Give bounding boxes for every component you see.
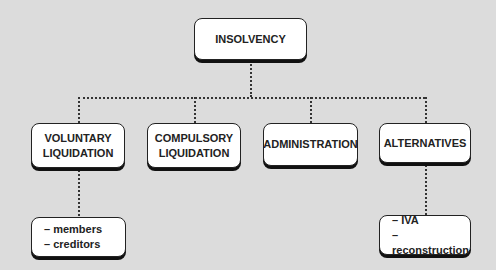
node-alternatives-label: ALTERNATIVES	[384, 136, 467, 151]
node-insolvency: INSOLVENCY	[194, 18, 307, 60]
connector-voluntary	[78, 97, 80, 123]
node-compulsory-label-line1: COMPULSORY	[155, 131, 233, 146]
node-alternatives-details: – IVA – reconstruction	[379, 215, 471, 255]
node-insolvency-label: INSOLVENCY	[215, 32, 286, 47]
connector-compulsory	[194, 97, 196, 123]
node-voluntary-label-line2: LIQUIDATION	[43, 146, 114, 161]
node-alternatives: ALTERNATIVES	[379, 123, 471, 163]
connector-root-down	[250, 61, 252, 97]
node-administration-label: ADMINISTRATION	[263, 137, 358, 152]
detail-iva: – IVA	[392, 213, 470, 228]
connector-horizontal	[78, 97, 425, 99]
connector-alternatives	[425, 97, 427, 123]
detail-members: – members	[44, 222, 102, 237]
node-voluntary-label-line1: VOLUNTARY	[43, 131, 114, 146]
node-compulsory-liquidation: COMPULSORY LIQUIDATION	[147, 123, 241, 168]
connector-administration	[310, 97, 312, 123]
detail-reconstruction: – reconstruction	[392, 228, 470, 258]
node-voluntary-liquidation: VOLUNTARY LIQUIDATION	[31, 123, 125, 168]
node-voluntary-details: – members – creditors	[31, 217, 126, 257]
node-compulsory-label-line2: LIQUIDATION	[155, 146, 233, 161]
connector-alternatives-details	[425, 165, 427, 215]
connector-voluntary-details	[78, 170, 80, 216]
detail-creditors: – creditors	[44, 237, 102, 252]
node-administration: ADMINISTRATION	[263, 123, 358, 166]
